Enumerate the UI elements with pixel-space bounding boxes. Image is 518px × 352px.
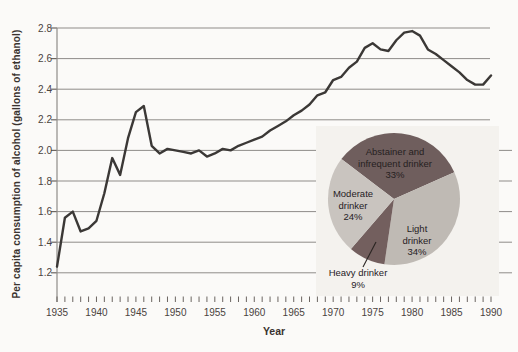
y-tick-label: 1.2 (38, 267, 52, 278)
y-tick-label: 2.0 (38, 145, 52, 156)
y-tick-label: 1.6 (38, 206, 52, 217)
y-tick-label: 2.4 (38, 84, 52, 95)
x-tick-label: 1990 (480, 307, 503, 318)
x-ticks (57, 297, 491, 303)
pie-label-heavy-drinker: Heavy drinker 9% (316, 267, 400, 290)
pie-label-abstainer-and-infrequent-drinker: Abstainer and infrequent drinker 33% (334, 146, 456, 181)
y-tick-label: 2.2 (38, 114, 52, 125)
x-axis-title: Year (257, 325, 291, 337)
pie-label-moderate-drinker: Moderate drinker 24% (316, 188, 390, 223)
y-tick-label: 1.8 (38, 176, 52, 187)
x-tick-label: 1950 (164, 307, 187, 318)
x-tick-label: 1940 (85, 307, 108, 318)
pie-inset: Abstainer and infrequent drinker 33% Mod… (316, 126, 499, 296)
x-tick-label: 1970 (322, 307, 345, 318)
figure: Per capita consumption of alcohol (gallo… (0, 0, 518, 352)
pie-label-light-drinker: Light drinker 34% (377, 223, 457, 258)
y-tick-label: 1.4 (38, 237, 52, 248)
x-tick-label: 1935 (46, 307, 69, 318)
x-tick-label: 1960 (243, 307, 266, 318)
y-tick-label: 2.6 (38, 53, 52, 64)
x-tick-label: 1975 (362, 307, 385, 318)
x-tick-label: 1955 (204, 307, 227, 318)
x-tick-label: 1965 (283, 307, 306, 318)
x-tick-label: 1945 (125, 307, 148, 318)
x-tick-label: 1980 (401, 307, 424, 318)
y-tick-label: 2.8 (38, 23, 52, 34)
x-tick-label: 1985 (440, 307, 463, 318)
